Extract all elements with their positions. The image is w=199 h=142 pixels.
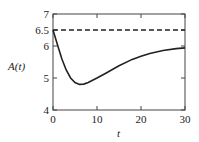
x-axis-label: t	[117, 127, 121, 139]
y-tick-label: 7	[44, 8, 50, 20]
x-tick-label: 0	[50, 113, 56, 125]
axis-ticks: 01020304566.57	[35, 8, 191, 125]
y-tick-label: 6	[44, 40, 50, 52]
y-tick-label: 6.5	[35, 24, 49, 36]
y-axis-label: A(t)	[7, 60, 25, 73]
chart: 01020304566.57 A(t) t	[0, 0, 199, 142]
plot-frame	[53, 14, 185, 110]
x-tick-label: 30	[180, 113, 192, 125]
x-tick-label: 20	[136, 113, 148, 125]
x-tick-label: 10	[92, 113, 104, 125]
y-tick-label: 5	[44, 72, 50, 84]
y-tick-label: 4	[44, 104, 50, 116]
curve-a-of-t	[53, 30, 185, 84]
